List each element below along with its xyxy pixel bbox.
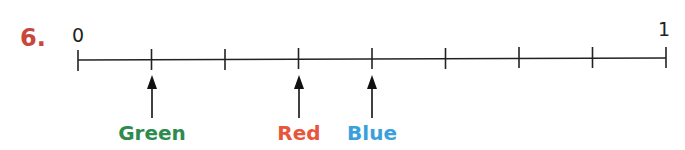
marker-label-red: Red [277,121,320,145]
arrow-icon [147,75,377,118]
marker-label-blue: Blue [347,121,397,145]
marker-label-green: Green [118,121,186,145]
number-line [0,0,685,150]
